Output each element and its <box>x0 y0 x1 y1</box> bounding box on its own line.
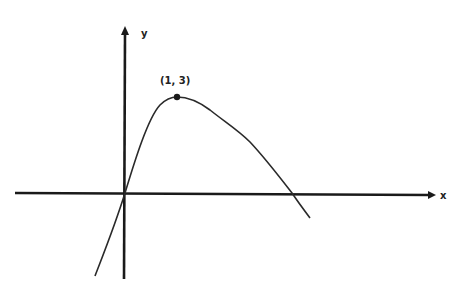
x-axis-arrow-icon <box>428 191 436 199</box>
y-axis-arrow-icon <box>121 26 129 35</box>
x-axis-label: x <box>440 190 446 201</box>
x-axis <box>15 193 430 195</box>
function-curve <box>95 97 310 276</box>
point-label: (1, 3) <box>160 75 190 86</box>
y-axis <box>124 34 125 279</box>
y-axis-label: y <box>141 28 148 39</box>
point-marker <box>174 94 180 100</box>
graph-canvas <box>0 0 460 291</box>
